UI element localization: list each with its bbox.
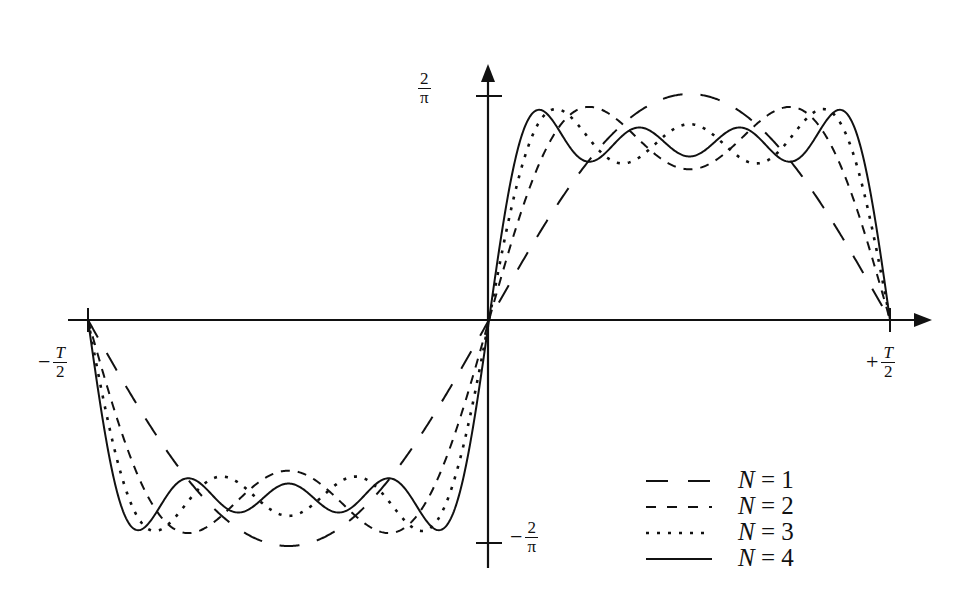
y-tick-label-top: 2π <box>418 70 431 107</box>
legend-label-n2: N = 2 <box>738 492 794 520</box>
plot-canvas <box>0 0 964 596</box>
y-tick-label-bottom: −2π <box>510 519 538 556</box>
legend-label-n4: N = 4 <box>738 544 794 572</box>
legend-swatches <box>646 481 712 559</box>
x-tick-label-right: +T2 <box>866 344 895 381</box>
y-axis-arrow-icon <box>481 64 495 82</box>
legend-label-n3: N = 3 <box>738 518 794 546</box>
legend-label-n1: N = 1 <box>738 466 794 494</box>
x-axis-arrow-icon <box>914 313 932 327</box>
x-tick-label-left: −T2 <box>38 344 67 381</box>
